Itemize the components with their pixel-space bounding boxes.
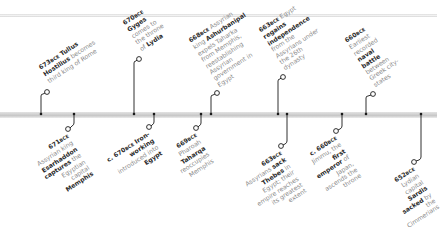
marker-663-egypt: [281, 75, 286, 80]
marker-652: [412, 160, 417, 165]
marker-663-thebes: [279, 144, 284, 149]
connector-668: [211, 94, 215, 114]
marker-669: [194, 126, 199, 131]
connector-673: [41, 93, 45, 114]
connector-671: [70, 114, 74, 128]
connector-663-thebes: [283, 114, 287, 145]
marker-670-gyges: [137, 57, 142, 62]
marker-670-iron: [147, 125, 152, 130]
marker-671: [66, 127, 71, 132]
connector-670-iron: [151, 114, 154, 126]
connector-669: [198, 114, 201, 127]
connector-660-jimmu: [338, 114, 342, 130]
marker-668: [215, 91, 220, 96]
marker-673: [45, 90, 50, 95]
marker-660-naval: [371, 92, 376, 97]
connector-663-egypt: [278, 78, 281, 114]
connector-652: [416, 114, 421, 161]
connector-670-gyges: [134, 60, 137, 114]
marker-660-jimmu: [334, 129, 339, 134]
connector-660-naval: [366, 95, 371, 114]
